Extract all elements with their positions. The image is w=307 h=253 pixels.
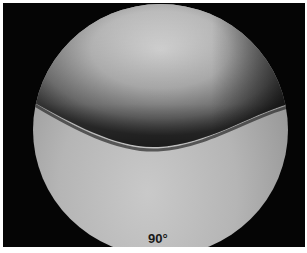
- angle-label: 90°: [148, 231, 168, 246]
- image-frame: 90°: [3, 3, 305, 247]
- endoscope-view: [33, 4, 288, 247]
- upper-tissue-surface: [33, 4, 288, 247]
